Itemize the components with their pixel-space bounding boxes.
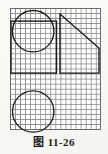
lower-circle-shape bbox=[13, 91, 54, 132]
figure-caption-label: 图 bbox=[33, 136, 44, 149]
figure-drawing bbox=[10, 8, 101, 130]
figure-container: 图 11-26 bbox=[0, 0, 108, 154]
graph-paper-panel bbox=[10, 8, 101, 130]
figure-caption: 图 11-26 bbox=[0, 133, 108, 149]
figure-caption-number: 11-26 bbox=[48, 136, 75, 148]
upper-circle-shape bbox=[13, 11, 54, 52]
square-outline-shape bbox=[11, 21, 57, 73]
right-triangle-shape bbox=[60, 14, 99, 73]
